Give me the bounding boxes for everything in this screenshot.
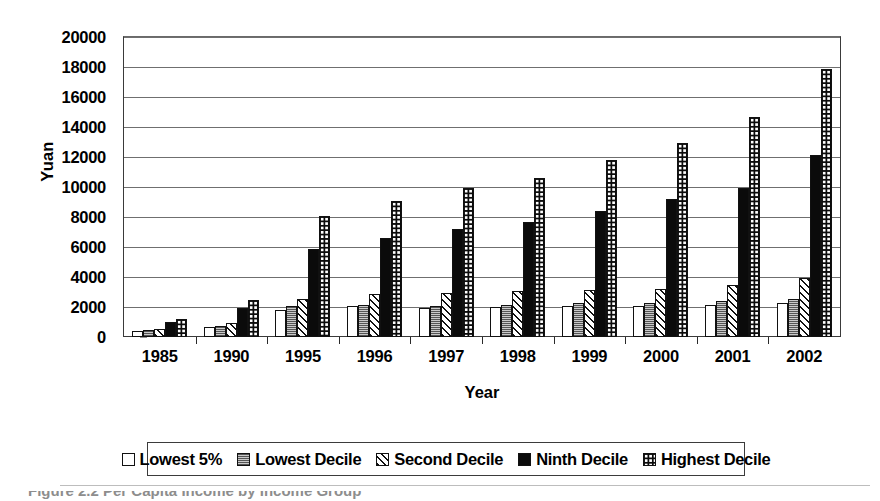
y-axis-tick-18000: 18000 (62, 58, 106, 77)
x-axis-tick-1985: 1985 (142, 347, 178, 366)
bar-2000-lowest-5 (633, 306, 644, 337)
bar-2002-second-decile (799, 278, 810, 337)
x-axis-tick-2001: 2001 (715, 347, 751, 366)
legend-swatch-lowest-5 (122, 453, 135, 466)
bars-layer (124, 37, 840, 337)
legend-swatch-ninth-decile (518, 453, 531, 466)
x-axis-tickmark (554, 337, 555, 344)
bar-2000-highest-decile (677, 143, 688, 337)
x-axis-tick-1999: 1999 (571, 347, 607, 366)
x-axis-tick-1990: 1990 (213, 347, 249, 366)
x-axis-tickmark (697, 337, 698, 344)
bar-group-2000 (625, 37, 697, 337)
bar-1997-ninth-decile (452, 229, 463, 337)
bar-1998-lowest-5 (490, 307, 501, 337)
legend-item-lowest-5[interactable]: Lowest 5% (122, 450, 223, 469)
bar-group-1997 (410, 37, 482, 337)
bar-1985-highest-decile (176, 319, 187, 337)
legend-label-ninth-decile: Ninth Decile (536, 450, 628, 469)
bar-1996-highest-decile (391, 201, 402, 338)
x-axis-tick-1998: 1998 (500, 347, 536, 366)
y-axis-tick-20000: 20000 (62, 28, 106, 47)
legend-label-lowest-5: Lowest 5% (140, 450, 223, 469)
bar-2001-second-decile (727, 285, 738, 337)
bar-1999-lowest-decile (573, 303, 584, 337)
x-axis-tickmark (482, 337, 483, 344)
x-axis-tickmark (625, 337, 626, 344)
bar-2002-lowest-decile (788, 299, 799, 337)
bar-1997-lowest-decile (430, 306, 441, 338)
x-axis-tick-1995: 1995 (285, 347, 321, 366)
bar-1995-lowest-5 (275, 310, 286, 337)
bar-1999-ninth-decile (595, 211, 606, 337)
legend-item-highest-decile[interactable]: Highest Decile (643, 450, 771, 469)
bar-1998-ninth-decile (523, 222, 534, 337)
x-axis-tick-2000: 2000 (643, 347, 679, 366)
bar-1995-second-decile (297, 299, 308, 337)
bar-1996-ninth-decile (380, 238, 391, 337)
bar-group-1999 (554, 37, 626, 337)
legend-label-second-decile: Second Decile (394, 450, 503, 469)
bar-1997-second-decile (441, 293, 452, 337)
bar-group-1995 (267, 37, 339, 337)
y-axis-tick-4000: 4000 (70, 268, 106, 287)
bar-2002-highest-decile (821, 69, 832, 337)
bar-1996-lowest-5 (347, 306, 358, 337)
x-axis-tickmark (768, 337, 769, 344)
legend-item-ninth-decile[interactable]: Ninth Decile (518, 450, 628, 469)
bar-2002-ninth-decile (810, 155, 821, 337)
bar-1998-second-decile (512, 291, 523, 337)
figure-caption-text: Figure 2.2 Per Capita Income by Income G… (28, 491, 361, 499)
x-axis-tick-2002: 2002 (786, 347, 822, 366)
y-axis-tick-labels: 0200040006000800010000120001400016000180… (24, 36, 116, 337)
page-rule (60, 485, 870, 486)
bar-2000-second-decile (655, 289, 666, 337)
bar-2000-lowest-decile (644, 303, 655, 337)
bar-1995-ninth-decile (308, 249, 319, 337)
bar-1999-lowest-5 (562, 306, 573, 338)
bar-group-1996 (339, 37, 411, 337)
y-axis-tick-6000: 6000 (70, 238, 106, 257)
legend-item-second-decile[interactable]: Second Decile (376, 450, 503, 469)
legend-label-lowest-decile: Lowest Decile (255, 450, 361, 469)
x-axis-ticks (124, 337, 840, 344)
bar-1996-lowest-decile (358, 305, 369, 337)
bar-1990-lowest-decile (215, 326, 226, 337)
bar-1998-lowest-decile (501, 305, 512, 337)
bar-1990-lowest-5 (204, 327, 215, 337)
legend-item-lowest-decile[interactable]: Lowest Decile (237, 450, 361, 469)
bar-1999-second-decile (584, 290, 595, 337)
bar-2000-ninth-decile (666, 199, 677, 337)
x-axis-tickmark (339, 337, 340, 344)
bar-2001-highest-decile (749, 117, 760, 338)
y-axis-tick-0: 0 (97, 328, 106, 347)
x-axis-tick-labels: 1985199019951996199719981999200020012002 (124, 347, 840, 371)
x-axis-tickmark (267, 337, 268, 344)
bar-1995-lowest-decile (286, 306, 297, 337)
bar-1990-highest-decile (248, 300, 259, 337)
bar-1996-second-decile (369, 294, 380, 338)
bar-group-1998 (482, 37, 554, 337)
bar-2001-lowest-5 (705, 305, 716, 337)
legend-label-highest-decile: Highest Decile (661, 450, 771, 469)
legend-swatch-highest-decile (643, 453, 656, 466)
y-axis-tick-10000: 10000 (62, 178, 106, 197)
y-axis-tick-8000: 8000 (70, 208, 106, 227)
x-axis-tickmark (196, 337, 197, 344)
bar-1999-highest-decile (606, 160, 617, 337)
bar-1997-lowest-5 (419, 308, 430, 337)
bar-1990-second-decile (226, 323, 237, 337)
bar-group-1990 (196, 37, 268, 337)
bar-1997-highest-decile (463, 188, 474, 337)
y-axis-tick-16000: 16000 (62, 88, 106, 107)
y-axis-tick-14000: 14000 (62, 118, 106, 137)
bar-2001-lowest-decile (716, 301, 727, 337)
legend-swatch-lowest-decile (237, 453, 250, 466)
chart-legend: Lowest 5%Lowest DecileSecond DecileNinth… (147, 442, 745, 476)
bar-2002-lowest-5 (777, 303, 788, 337)
bar-1995-highest-decile (319, 216, 330, 337)
x-axis-tick-1997: 1997 (428, 347, 464, 366)
x-axis-tickmark (410, 337, 411, 344)
bar-group-1985 (124, 37, 196, 337)
bar-chart-figure: Yuan 02000400060008000100001200014000160… (0, 0, 880, 501)
